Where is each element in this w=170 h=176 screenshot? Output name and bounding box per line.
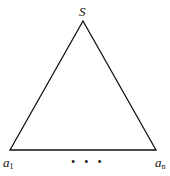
apex-label-s: S	[79, 4, 86, 19]
vertex-label-a1: a1	[3, 155, 14, 171]
vertex-label-an: an	[155, 155, 166, 171]
triangle-diagram: S a1 • • • an	[0, 0, 170, 176]
triangle-shape	[10, 21, 156, 150]
ellipsis-dots: • • •	[71, 155, 105, 169]
